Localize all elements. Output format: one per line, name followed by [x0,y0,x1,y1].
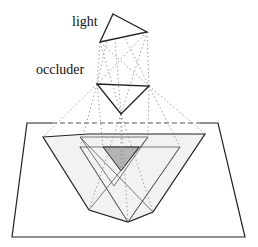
light-source-triangle [100,14,147,42]
shadow-diagram [0,0,258,247]
occluder-triangle [97,84,149,114]
